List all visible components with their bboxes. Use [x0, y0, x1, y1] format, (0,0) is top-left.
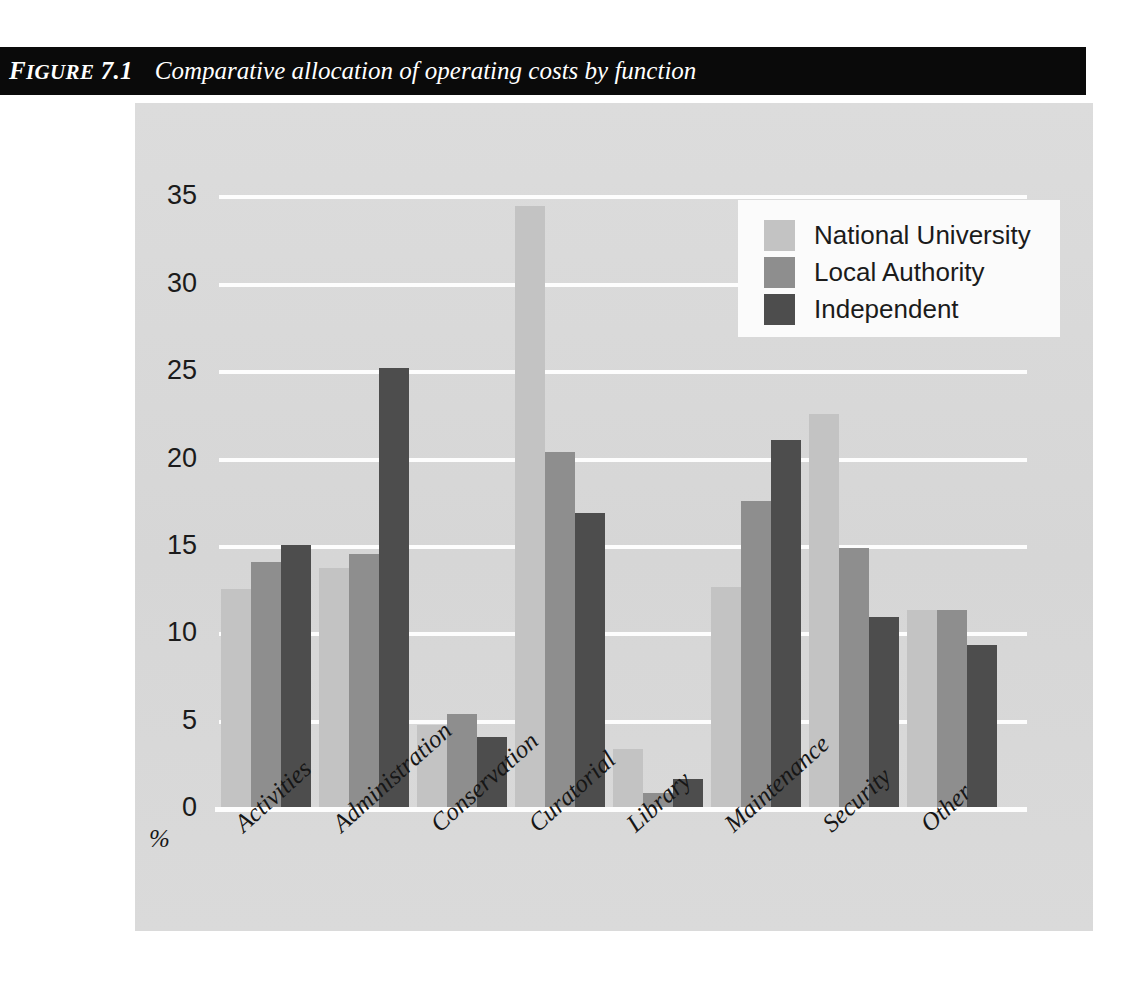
- bar: [319, 568, 349, 807]
- y-axis-unit-label: %: [149, 825, 170, 853]
- bar-group: [417, 178, 507, 807]
- legend-item: Independent: [764, 294, 1060, 325]
- bar: [711, 587, 741, 807]
- bar-group: [515, 178, 605, 807]
- y-axis-tick-label: 15: [167, 529, 197, 560]
- bar: [379, 368, 409, 807]
- figure-title-banner: FIGURE 7.1 Comparative allocation of ope…: [0, 47, 1086, 95]
- y-axis-tick-label: 10: [167, 617, 197, 648]
- y-axis-tick-label: 30: [167, 267, 197, 298]
- bar: [349, 554, 379, 807]
- bar: [967, 645, 997, 807]
- bar: [545, 452, 575, 807]
- bar: [251, 562, 281, 807]
- legend-item: National University: [764, 220, 1060, 251]
- legend-item: Local Authority: [764, 257, 1060, 288]
- bar-group: [221, 178, 311, 807]
- y-axis-tick-label: 5: [182, 704, 197, 735]
- bar: [741, 501, 771, 807]
- legend-label: Local Authority: [814, 257, 985, 288]
- y-axis-tick-label: 0: [182, 792, 197, 823]
- bar: [221, 589, 251, 807]
- figure-label: FIGURE 7.1: [9, 57, 133, 85]
- y-axis-tick-label: 25: [167, 355, 197, 386]
- bar: [613, 749, 643, 807]
- figure-title: Comparative allocation of operating cost…: [155, 57, 697, 85]
- legend-label: National University: [814, 220, 1031, 251]
- bar: [515, 206, 545, 807]
- chart-legend: National University Local Authority Inde…: [738, 200, 1060, 337]
- bar-group: [613, 178, 703, 807]
- y-axis-tick-label: 35: [167, 180, 197, 211]
- y-axis-tick-label: 20: [167, 442, 197, 473]
- legend-swatch-local-authority: [764, 257, 795, 288]
- legend-label: Independent: [814, 294, 959, 325]
- chart-panel: % 05101520253035 ActivitiesAdministratio…: [135, 103, 1093, 931]
- bar: [907, 610, 937, 807]
- bar-group: [319, 178, 409, 807]
- legend-swatch-national-university: [764, 220, 795, 251]
- bar: [839, 548, 869, 807]
- bar: [937, 610, 967, 807]
- legend-swatch-independent: [764, 294, 795, 325]
